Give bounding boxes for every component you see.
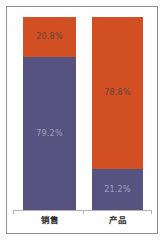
bar-segment: 20.8% (23, 17, 76, 57)
bar-segment: 21.2% (92, 169, 143, 210)
bar-sales: 20.8%79.2% (23, 17, 76, 210)
chart-frame: 20.8%79.2% 78.8%21.2% 销售 产品 (6, 6, 158, 234)
x-axis-label-product: 产品 (92, 215, 143, 225)
bar-segment: 78.8% (92, 17, 143, 169)
segment-value-label: 21.2% (104, 186, 130, 194)
x-axis-tick (83, 211, 84, 214)
segment-value-label: 20.8% (36, 33, 62, 41)
segment-value-label: 79.2% (36, 130, 62, 138)
x-axis-tick (151, 211, 152, 214)
x-axis-tick (13, 211, 14, 214)
bar-segment: 79.2% (23, 57, 76, 210)
x-axis-label-sales: 销售 (23, 215, 76, 225)
x-axis-line (13, 210, 152, 211)
bar-product: 78.8%21.2% (92, 17, 143, 210)
segment-value-label: 78.8% (104, 89, 130, 97)
plot-area: 20.8%79.2% 78.8%21.2% 销售 产品 (7, 7, 157, 233)
